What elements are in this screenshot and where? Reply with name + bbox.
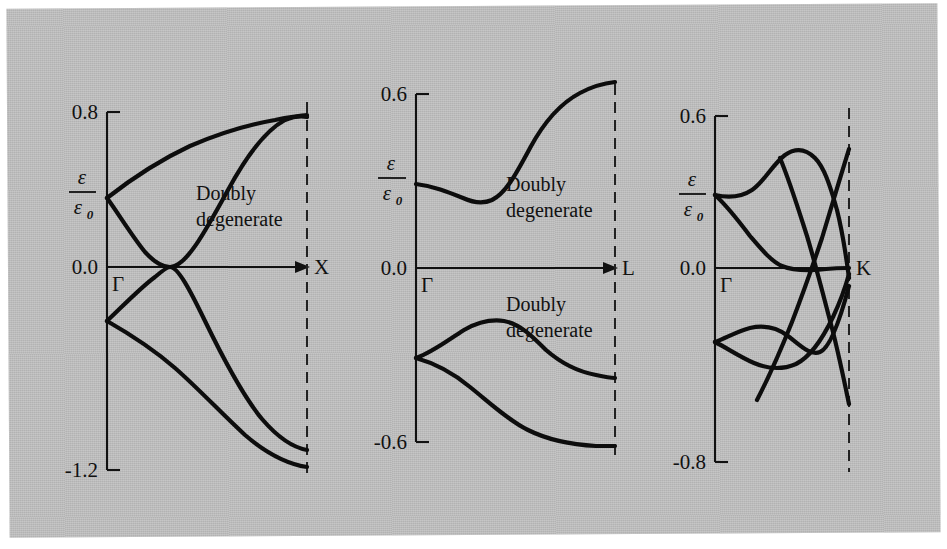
panel-gamma-l-svg: 0.6 0.0 -0.6 ε ε 0 Γ L Doubly degenerate… [318, 0, 638, 549]
y-tick-label-bottom: -1.2 [65, 458, 98, 482]
panel-gamma-k-svg: 0.6 0.0 -0.8 ε ε 0 Γ K [630, 0, 947, 549]
symmetry-point-gamma: Γ [421, 273, 433, 297]
y-axis-label-denominator-subscript: 0 [87, 207, 94, 222]
annotation-upper-doubly-line2: degenerate [506, 199, 593, 222]
y-tick-label-bottom: -0.6 [374, 430, 407, 454]
symmetry-point-gamma: Γ [720, 273, 732, 297]
y-axis-label-numerator: ε [78, 165, 87, 189]
annotation-upper-doubly-line1: Doubly [506, 173, 566, 196]
annotation-doubly-line1: Doubly [196, 182, 256, 205]
band-curve-lower-1 [107, 267, 307, 450]
band-curve-lower-2 [107, 321, 307, 467]
y-axis-label-denominator-subscript: 0 [396, 193, 403, 208]
y-axis-label-numerator: ε [688, 167, 697, 191]
y-axis-label-denominator: ε [74, 195, 83, 219]
panel-gamma-x: 0.8 0.0 -1.2 ε ε 0 Γ X Doubly degenerate [0, 0, 330, 549]
y-tick-label-top: 0.6 [381, 82, 407, 106]
y-tick-label-zero: 0.0 [680, 256, 706, 280]
band-curve-3-rising-to-k [757, 149, 849, 400]
band-curve-2-descending-flat [715, 195, 849, 270]
band-structure-plots: 0.8 0.0 -1.2 ε ε 0 Γ X Doubly degenerate [0, 0, 947, 549]
y-tick-label-bottom: -0.8 [673, 450, 706, 474]
annotation-doubly-line2: degenerate [196, 208, 283, 231]
symmetry-point-k: K [856, 256, 871, 280]
y-axis-label-denominator: ε [684, 197, 693, 221]
panel-gamma-x-svg: 0.8 0.0 -1.2 ε ε 0 Γ X Doubly degenerate [0, 0, 330, 549]
y-tick-label-zero: 0.0 [381, 256, 407, 280]
panel-gamma-l: 0.6 0.0 -0.6 ε ε 0 Γ L Doubly degenerate… [318, 0, 638, 549]
panel-gamma-k: 0.6 0.0 -0.8 ε ε 0 Γ K [630, 0, 947, 549]
y-tick-label-zero: 0.0 [72, 255, 98, 279]
y-axis-label-denominator: ε [383, 181, 392, 205]
annotation-lower-doubly-line2: degenerate [506, 319, 593, 342]
y-axis-label-denominator-subscript: 0 [697, 209, 704, 224]
annotation-lower-doubly-line1: Doubly [506, 293, 566, 316]
band-curve-6-lower-dip [715, 274, 849, 368]
y-tick-label-top: 0.6 [680, 104, 706, 128]
symmetry-point-gamma: Γ [112, 272, 124, 296]
y-axis-label-numerator: ε [387, 151, 396, 175]
figure-page: 0.8 0.0 -1.2 ε ε 0 Γ X Doubly degenerate [0, 0, 947, 549]
y-tick-label-top: 0.8 [72, 100, 98, 124]
